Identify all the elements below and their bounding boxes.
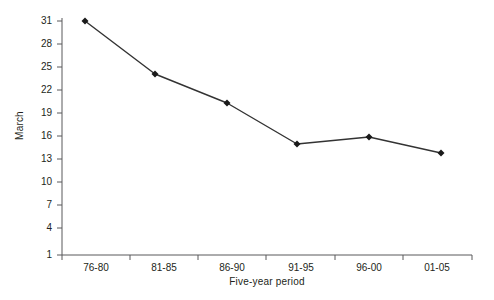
- y-tick-label-25: 25: [26, 61, 52, 72]
- y-tick-label-19: 19: [26, 107, 52, 118]
- y-tick-label-16: 16: [26, 130, 52, 141]
- y-tick-label-22: 22: [26, 84, 52, 95]
- y-tick-label-10: 10: [26, 176, 52, 187]
- axis-lines: [62, 18, 472, 255]
- x-tick-label-96-00: 96-00: [334, 262, 404, 273]
- chart-plot-area: [0, 0, 494, 300]
- x-tick-label-91-95: 91-95: [266, 262, 336, 273]
- data-markers: [82, 18, 445, 157]
- data-point-marker: [294, 141, 301, 148]
- x-tick-label-86-90: 86-90: [197, 262, 267, 273]
- x-axis-title: Five-year period: [62, 276, 472, 287]
- line-chart: March 31 28 25 22 19 16 13 10 7 4 1 76-8…: [0, 0, 494, 300]
- y-axis-ticks: [57, 21, 62, 255]
- y-tick-label-31: 31: [26, 15, 52, 26]
- y-tick-label-4: 4: [26, 222, 52, 233]
- y-tick-label-1: 1: [26, 249, 52, 260]
- data-line-march: [85, 21, 441, 153]
- y-tick-label-13: 13: [26, 153, 52, 164]
- x-tick-label-76-80: 76-80: [61, 262, 131, 273]
- data-point-marker: [366, 134, 373, 141]
- x-axis-ticks: [62, 255, 472, 260]
- x-tick-label-81-85: 81-85: [129, 262, 199, 273]
- y-tick-label-28: 28: [26, 38, 52, 49]
- data-point-marker: [438, 150, 445, 157]
- data-point-marker: [224, 100, 231, 107]
- x-tick-label-01-05: 01-05: [402, 262, 472, 273]
- y-tick-label-7: 7: [26, 199, 52, 210]
